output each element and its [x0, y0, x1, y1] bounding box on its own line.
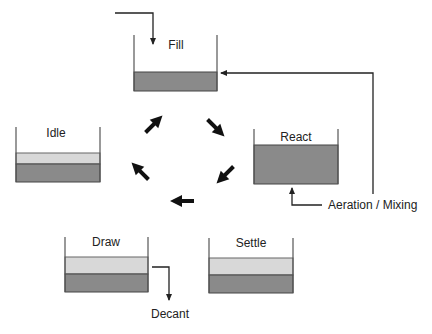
- tank-label-react: React: [280, 130, 312, 144]
- arrow-idle-to-fill: [141, 111, 166, 136]
- aeration-pipe: Aeration / Mixing: [292, 188, 417, 212]
- tank-fill: Fill: [134, 35, 217, 91]
- aeration-label: Aeration / Mixing: [328, 198, 417, 212]
- cycle-arrows: [127, 111, 237, 207]
- tank-label-draw: Draw: [92, 235, 120, 249]
- tank-settle: Settle: [209, 236, 293, 293]
- decant-label: Decant: [151, 307, 190, 321]
- decant-pipe: Decant: [151, 267, 190, 321]
- tank-draw: Draw: [65, 235, 148, 292]
- tank-label-settle: Settle: [236, 236, 267, 250]
- arrow-fill-to-react: [203, 115, 228, 140]
- arrow-settle-to-draw: [170, 195, 194, 207]
- tank-react: React: [254, 129, 338, 184]
- arrow-draw-to-idle: [127, 158, 152, 183]
- arrow-react-to-settle: [212, 162, 237, 187]
- tank-idle: Idle: [16, 126, 100, 182]
- sbr-cycle-diagram: Fill React Aeration / Mixing Idle Draw D…: [0, 0, 432, 334]
- tank-label-fill: Fill: [168, 38, 183, 52]
- tank-label-idle: Idle: [46, 126, 66, 140]
